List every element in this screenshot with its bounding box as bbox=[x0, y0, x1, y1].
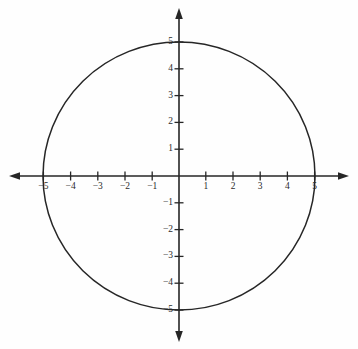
y-tick-label-2: 2 bbox=[168, 118, 173, 128]
x-tick-label-1: 1 bbox=[203, 182, 208, 192]
y-axis-down-arrow-icon bbox=[175, 331, 183, 342]
x-tick-label-3: 3 bbox=[258, 182, 263, 192]
x-tick-label--1: −1 bbox=[147, 182, 157, 192]
x-tick-label--5: −5 bbox=[38, 182, 48, 192]
y-tick-label--4: −4 bbox=[163, 278, 173, 288]
x-tick-label--2: −2 bbox=[120, 182, 130, 192]
y-tick-label--1: −1 bbox=[163, 198, 173, 208]
y-axis-up-arrow-icon bbox=[175, 8, 183, 19]
coordinate-plane-figure: −5 −4 −3 −2 −1 1 2 3 4 5 5 4 3 2 1 −1 −2… bbox=[0, 0, 358, 349]
x-tick-label-2: 2 bbox=[231, 182, 236, 192]
x-tick-label-4: 4 bbox=[285, 182, 290, 192]
x-tick-label--3: −3 bbox=[93, 182, 103, 192]
y-tick-label-5: 5 bbox=[168, 37, 173, 47]
y-tick-label--3: −3 bbox=[163, 252, 173, 262]
y-tick-label-1: 1 bbox=[168, 144, 173, 154]
y-tick-label--2: −2 bbox=[163, 225, 173, 235]
x-axis-left-arrow-icon bbox=[9, 172, 20, 180]
x-tick-label--4: −4 bbox=[66, 182, 76, 192]
y-tick-label--5: −5 bbox=[163, 305, 173, 315]
x-tick-label-5: 5 bbox=[312, 182, 317, 192]
y-tick-label-3: 3 bbox=[168, 91, 173, 101]
plot-canvas bbox=[0, 0, 358, 349]
x-axis-right-arrow-icon bbox=[338, 172, 349, 180]
y-tick-label-4: 4 bbox=[168, 64, 173, 74]
